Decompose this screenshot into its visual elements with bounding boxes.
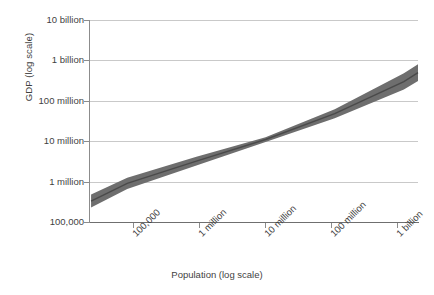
y-axis-tick-label: 1 million bbox=[0, 177, 84, 187]
y-axis-tick-labels: 10 billion1 billion100 million10 million… bbox=[0, 0, 84, 295]
chart-container: GDP (log scale) 10 billion1 billion100 m… bbox=[0, 0, 434, 295]
y-axis-tick-label: 1 billion bbox=[0, 55, 84, 65]
y-axis-tick-label: 10 million bbox=[0, 136, 84, 146]
y-axis-tick-label: 10 billion bbox=[0, 15, 84, 25]
y-axis-tick-mark bbox=[84, 141, 90, 142]
confidence-band bbox=[91, 64, 418, 207]
y-axis-tick-mark bbox=[84, 101, 90, 102]
data-series-group bbox=[89, 20, 418, 223]
y-axis-tick-mark bbox=[84, 222, 90, 223]
y-axis-tick-label: 100 million bbox=[0, 96, 84, 106]
y-axis-tick-mark bbox=[84, 60, 90, 61]
y-axis-tick-label: 100,000 bbox=[0, 217, 84, 227]
y-axis-tick-mark bbox=[84, 20, 90, 21]
y-axis-tick-mark bbox=[84, 182, 90, 183]
x-axis-title: Population (log scale) bbox=[0, 269, 434, 280]
